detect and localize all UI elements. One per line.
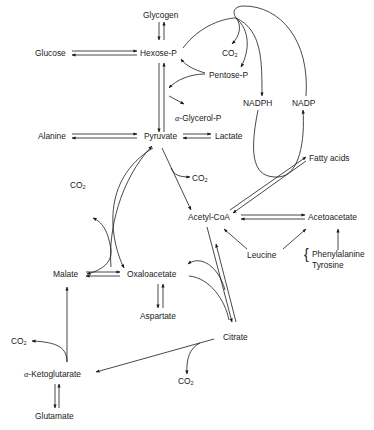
arc-oxaloacetate-to-citrate (189, 276, 229, 320)
node-leucine: Leucine (247, 251, 276, 259)
arrow-leucine-to-acetylcoa (224, 229, 247, 249)
brace-icon: { (304, 247, 309, 261)
node-fatty-acids: Fatty acids (309, 154, 350, 162)
arrow-oxaloacetate-malate-curve (87, 250, 111, 274)
node-co2-pyruvate: CO2 (192, 174, 208, 184)
node-tyrosine: Tyrosine (312, 261, 344, 269)
node-alanine: Alanine (38, 132, 66, 140)
node-glutamate: Glutamate (35, 412, 74, 420)
arc-nadp-to-branch (234, 6, 306, 96)
arrow-pyruvate-to-oxaloacetate (113, 148, 153, 268)
node-glycogen: Glycogen (143, 11, 178, 19)
arrow-acetylcoa-to-citrate (207, 227, 232, 322)
arrow-citrate-co2 (187, 343, 200, 374)
node-aspartate: Aspartate (140, 312, 176, 320)
node-alpha-ketoglutarate: α-Ketoglutarate (24, 370, 81, 379)
arrow-acetylcoa-to-fatty (230, 157, 306, 210)
node-oxaloacetate: Oxaloacetate (127, 270, 176, 278)
arrow-fatty-to-acetylcoa (233, 161, 306, 213)
arc-hexose-to-pentose-branch (183, 18, 236, 48)
node-malate: Malate (53, 270, 78, 278)
arrow-pyruvate-co2 (171, 168, 190, 177)
node-acetoacetate: Acetoacetate (308, 213, 357, 221)
node-phenylalanine: Phenylalanine (312, 250, 365, 258)
node-pyruvate: Pyruvate (144, 132, 177, 140)
node-co2-akg: CO2 (11, 337, 27, 347)
node-hexose-p: Hexose-P (140, 49, 177, 57)
node-alpha-glycerol-p: α-Glycerol-P (175, 114, 221, 123)
arrow-pentose-to-hexose (181, 59, 205, 73)
node-acetyl-coa: Acetyl-CoA (188, 213, 230, 221)
node-co2-left: CO2 (70, 181, 86, 191)
arrow-glycerol-to-hexose (169, 96, 184, 104)
arrow-leucine-to-acetoacetate (283, 229, 306, 249)
arrow-akg-co2 (32, 341, 67, 362)
node-lactate: Lactate (215, 132, 242, 140)
arrow-pyruvate-to-acetylcoa (162, 148, 191, 210)
arrow-branch-to-co2 (232, 18, 239, 44)
arrow-branch-to-nadph (236, 18, 262, 96)
node-co2-citrate: CO2 (178, 377, 194, 387)
node-nadph: NADPH (243, 99, 272, 107)
arrow-citrate-to-akg (96, 339, 214, 372)
node-nadp: NADP (292, 99, 315, 107)
node-pentose-p: Pentose-P (209, 71, 248, 79)
node-citrate: Citrate (223, 333, 248, 341)
node-co2-top: CO2 (222, 49, 238, 59)
arc-nadph-fatty-nadp (254, 110, 304, 177)
arrow-branch-to-pentose (236, 18, 247, 67)
arrow-malate-co2 (93, 218, 111, 250)
arrow-pentose-to-glycerol-branch (169, 74, 205, 88)
node-glucose: Glucose (35, 49, 66, 57)
